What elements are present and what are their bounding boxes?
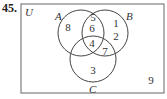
region-value-a-b-c: 4	[89, 37, 95, 49]
venn-diagram: U A B C 856124739	[0, 0, 167, 99]
region-value-a-and-b-only: 6	[89, 22, 95, 34]
region-value-b-and-c-only: 7	[102, 45, 108, 57]
set-a-label: A	[54, 10, 62, 22]
region-value-a-only: 8	[65, 21, 71, 33]
set-a-circle	[58, 10, 104, 56]
set-b-label: B	[126, 10, 133, 22]
region-value-c-only: 3	[90, 64, 96, 76]
region-value-outside: 9	[148, 74, 154, 86]
region-value-b-only-2: 2	[113, 30, 119, 42]
universe-label: U	[25, 6, 34, 18]
set-c-label: C	[89, 83, 97, 95]
region-value-b-only-1: 1	[113, 17, 119, 29]
